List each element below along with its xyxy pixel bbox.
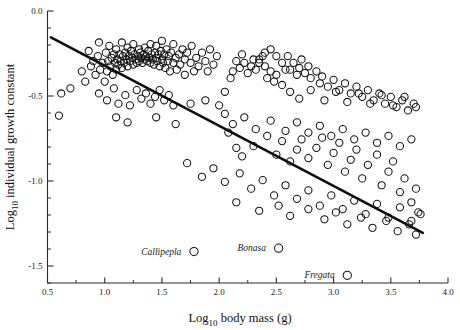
data-point <box>270 192 277 199</box>
data-point <box>286 88 293 95</box>
data-point <box>172 120 179 127</box>
data-point <box>330 149 337 156</box>
species-annotation-label: Fregata <box>303 270 335 280</box>
data-point <box>267 117 274 124</box>
x-tick-label: 2.0 <box>214 287 226 297</box>
data-point <box>387 93 394 100</box>
data-point <box>126 102 133 109</box>
annotated-data-point <box>190 247 198 255</box>
data-point <box>142 90 149 97</box>
data-point <box>101 78 108 85</box>
data-point <box>353 83 360 90</box>
data-point <box>316 122 323 129</box>
data-point <box>408 199 415 206</box>
data-point <box>210 165 217 172</box>
data-point <box>362 129 369 136</box>
data-point <box>298 136 305 143</box>
data-point <box>286 66 293 73</box>
data-point <box>115 100 122 107</box>
data-point <box>229 68 236 75</box>
data-point <box>278 81 285 88</box>
data-point <box>241 59 248 66</box>
data-point <box>401 175 408 182</box>
data-point <box>369 224 376 231</box>
data-point <box>275 202 282 209</box>
data-point <box>85 47 92 54</box>
data-point <box>415 209 422 216</box>
data-point <box>321 216 328 223</box>
y-tick-label: 0.0 <box>31 6 43 16</box>
data-point <box>328 132 335 139</box>
data-point <box>229 120 236 127</box>
data-point <box>417 211 424 218</box>
data-point <box>394 228 401 235</box>
data-point <box>238 51 245 58</box>
data-point <box>347 156 354 163</box>
data-point <box>396 188 403 195</box>
svg-text:Log10 individual growth consta: Log10 individual growth constant <box>3 63 20 230</box>
data-point <box>213 52 220 59</box>
data-point <box>319 134 326 141</box>
data-point <box>404 107 411 114</box>
data-point <box>78 68 85 75</box>
data-point <box>184 160 191 167</box>
data-point <box>319 73 326 80</box>
data-point <box>293 146 300 153</box>
data-point <box>373 151 380 158</box>
data-point <box>316 202 323 209</box>
species-annotation-label: Callipepla <box>141 247 181 257</box>
data-point <box>330 76 337 83</box>
species-annotation-label: Bonasa <box>238 243 267 253</box>
y-tick-label: -0.5 <box>28 91 43 101</box>
data-point <box>202 97 209 104</box>
data-point <box>195 63 202 70</box>
data-point <box>307 86 314 93</box>
data-point <box>241 114 248 121</box>
data-point <box>173 66 180 73</box>
data-point <box>106 42 113 49</box>
data-point <box>267 46 274 53</box>
data-point <box>305 129 312 136</box>
data-point <box>293 195 300 202</box>
species-annotations-group: CallipeplaBonasaFregata <box>141 243 351 280</box>
data-point <box>305 187 312 194</box>
data-point <box>305 205 312 212</box>
data-point <box>153 114 160 121</box>
data-point <box>227 75 234 82</box>
data-point <box>339 126 346 133</box>
data-point <box>381 100 388 107</box>
data-point <box>353 146 360 153</box>
data-point <box>341 168 348 175</box>
data-point <box>284 52 291 59</box>
annotated-data-point <box>275 244 283 252</box>
y-tick-label: -1.5 <box>28 261 43 271</box>
data-point <box>187 100 194 107</box>
x-axis-tick-labels: 0.51.01.52.02.53.03.54.0 <box>42 287 454 297</box>
data-point <box>347 90 354 97</box>
x-tick-label: 4.0 <box>442 287 454 297</box>
data-point <box>221 110 228 117</box>
data-point <box>344 221 351 228</box>
data-point <box>67 85 74 92</box>
data-point <box>389 158 396 165</box>
data-point <box>321 97 328 104</box>
data-point <box>270 78 277 85</box>
data-point <box>298 56 305 63</box>
data-point <box>293 119 300 126</box>
data-point <box>124 119 131 126</box>
data-point <box>147 100 154 107</box>
data-point <box>55 112 62 119</box>
data-point <box>248 185 255 192</box>
data-point <box>210 61 217 68</box>
data-point <box>396 143 403 150</box>
data-point <box>286 212 293 219</box>
data-point <box>103 97 110 104</box>
data-point <box>408 136 415 143</box>
data-point <box>385 132 392 139</box>
data-point <box>373 139 380 146</box>
data-point <box>216 102 223 109</box>
data-point <box>364 161 371 168</box>
growth-constant-scatter-figure: 0.51.01.52.02.53.03.54.0 0.0-0.5-1.0-1.5… <box>0 0 460 330</box>
data-point <box>94 52 101 59</box>
svg-text:Log10 body mass (g): Log10 body mass (g) <box>188 311 291 328</box>
